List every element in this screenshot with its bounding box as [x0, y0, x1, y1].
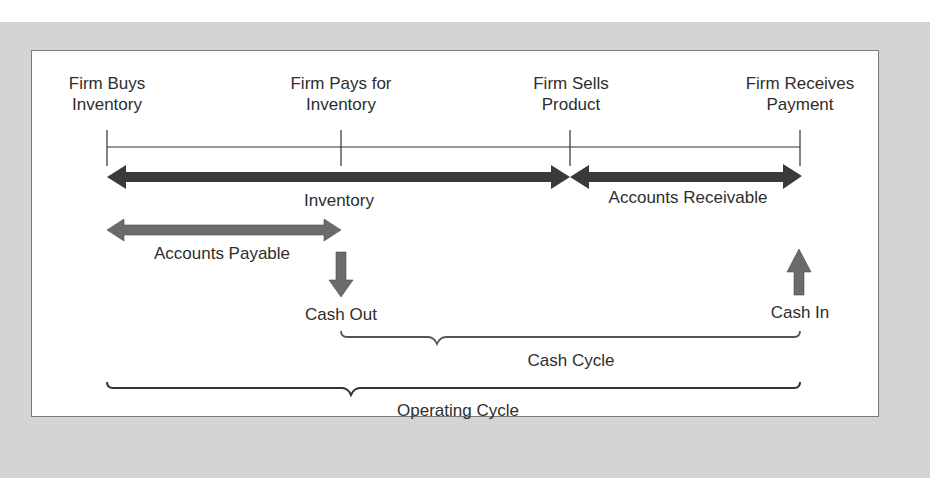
event-label-line2: Inventory — [69, 94, 146, 115]
cash-in-arrow-icon — [787, 249, 811, 295]
event-label-line2: Payment — [746, 94, 855, 115]
cash-out-arrow-icon — [329, 252, 353, 297]
accounts-payable-arrow — [107, 219, 341, 241]
cash-out-label: Cash Out — [305, 304, 377, 325]
operating-cycle-brace — [107, 382, 800, 395]
accounts-receivable-label: Accounts Receivable — [609, 187, 768, 208]
inventory-period-arrow — [107, 165, 570, 189]
inventory-label: Inventory — [304, 190, 374, 211]
cash-cycle-label: Cash Cycle — [528, 350, 615, 371]
event-label-line2: Product — [533, 94, 609, 115]
cash-cycle-brace — [341, 331, 800, 344]
event-label-line1: Firm Pays for — [290, 73, 391, 94]
event-firm-buys-inventory: Firm Buys Inventory — [69, 73, 146, 115]
event-firm-receives-payment: Firm Receives Payment — [746, 73, 855, 115]
accounts-receivable-arrow — [570, 164, 802, 189]
event-firm-sells-product: Firm Sells Product — [533, 73, 609, 115]
event-label-line1: Firm Receives — [746, 73, 855, 94]
accounts-payable-label: Accounts Payable — [154, 243, 290, 264]
event-label-line1: Firm Sells — [533, 73, 609, 94]
operating-cycle-label: Operating Cycle — [397, 400, 519, 421]
event-firm-pays-inventory: Firm Pays for Inventory — [290, 73, 391, 115]
timeline — [107, 130, 800, 166]
event-label-line1: Firm Buys — [69, 73, 146, 94]
event-label-line2: Inventory — [290, 94, 391, 115]
cash-in-label: Cash In — [771, 302, 830, 323]
